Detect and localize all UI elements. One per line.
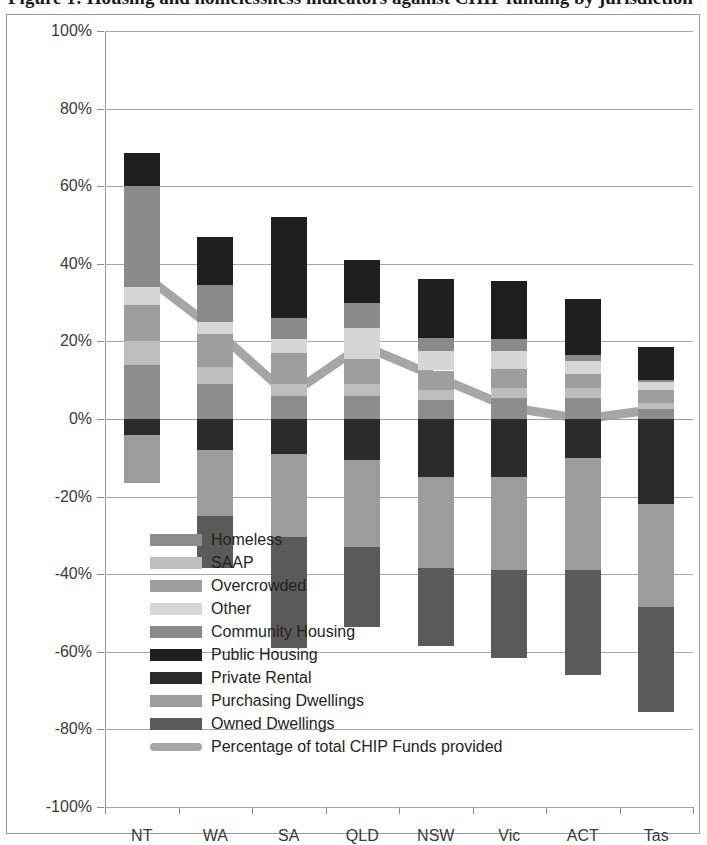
x-axis-tick xyxy=(546,807,547,814)
bar-segment xyxy=(124,186,160,287)
bar-segment xyxy=(418,390,454,400)
x-axis-tick xyxy=(179,807,180,814)
y-axis-tick xyxy=(97,31,104,32)
x-axis-tick xyxy=(620,807,621,814)
bar-segment xyxy=(197,322,233,334)
y-axis-label: -60% xyxy=(55,643,92,661)
bar-segment xyxy=(638,409,674,419)
bar-segment xyxy=(197,285,233,322)
bar-segment xyxy=(565,419,601,458)
legend-item[interactable]: Community Housing xyxy=(150,620,502,643)
bar-segment xyxy=(344,303,380,328)
bar-segment xyxy=(271,454,307,537)
x-axis-tick xyxy=(399,807,400,814)
legend-item-label: Purchasing Dwellings xyxy=(211,693,364,709)
bar-segment xyxy=(491,388,527,398)
y-axis-tick xyxy=(97,497,104,498)
bar-segment xyxy=(197,450,233,516)
legend-swatch-icon xyxy=(150,695,202,707)
y-axis-label: -100% xyxy=(46,798,92,816)
gridline xyxy=(105,186,693,187)
bar-segment xyxy=(124,365,160,419)
bar-segment xyxy=(124,435,160,484)
bar-segment xyxy=(124,341,160,364)
gridline xyxy=(105,341,693,342)
legend-swatch-icon xyxy=(150,580,202,592)
bar-segment xyxy=(638,607,674,712)
bar-segment xyxy=(197,384,233,419)
legend-swatch-icon xyxy=(150,743,202,751)
bar-segment xyxy=(271,217,307,318)
gridline xyxy=(105,264,693,265)
legend-swatch-icon xyxy=(150,672,202,684)
legend-item-label: Other xyxy=(211,601,251,617)
legend-item[interactable]: Percentage of total CHIP Funds provided xyxy=(150,735,502,758)
bar-segment xyxy=(638,403,674,409)
legend-item[interactable]: SAAP xyxy=(150,551,502,574)
bar-segment xyxy=(197,334,233,367)
y-axis-label: -40% xyxy=(55,565,92,583)
legend-item[interactable]: Purchasing Dwellings xyxy=(150,689,502,712)
page-title: Figure 1: Housing and homelessness indic… xyxy=(8,0,693,9)
bar-segment xyxy=(418,400,454,419)
bar-tas xyxy=(638,31,674,807)
bar-segment xyxy=(124,305,160,342)
y-axis-label: 20% xyxy=(60,332,92,350)
legend-item-label: Owned Dwellings xyxy=(211,716,335,732)
bar-segment xyxy=(565,374,601,388)
bar-segment xyxy=(638,347,674,380)
legend-item[interactable]: Public Housing xyxy=(150,643,502,666)
x-axis-tick xyxy=(252,807,253,814)
y-axis-label: 80% xyxy=(60,100,92,118)
bar-segment xyxy=(491,419,527,477)
y-axis-tick xyxy=(97,652,104,653)
gridline xyxy=(105,497,693,498)
bar-segment xyxy=(124,287,160,304)
chart-legend: HomelessSAAPOvercrowdedOtherCommunity Ho… xyxy=(150,528,502,758)
y-axis-tick xyxy=(97,341,104,342)
x-axis-label-qld: QLD xyxy=(346,827,379,845)
bar-segment xyxy=(491,339,527,351)
legend-item[interactable]: Other xyxy=(150,597,502,620)
bar-segment xyxy=(197,367,233,384)
bar-segment xyxy=(491,398,527,419)
legend-item[interactable]: Owned Dwellings xyxy=(150,712,502,735)
bar-segment xyxy=(271,318,307,339)
legend-item[interactable]: Overcrowded xyxy=(150,574,502,597)
y-axis-label: -20% xyxy=(55,488,92,506)
y-axis-label: 40% xyxy=(60,255,92,273)
bar-segment xyxy=(344,359,380,384)
bar-segment xyxy=(638,504,674,607)
bar-segment xyxy=(344,396,380,419)
x-axis-tick xyxy=(693,807,694,814)
bar-segment xyxy=(271,339,307,353)
bar-segment xyxy=(565,398,601,419)
legend-item-label: Community Housing xyxy=(211,624,355,640)
bar-act xyxy=(565,31,601,807)
bar-segment xyxy=(271,384,307,396)
bar-segment xyxy=(344,419,380,460)
y-axis-tick xyxy=(97,264,104,265)
legend-swatch-icon xyxy=(150,557,202,569)
bar-segment xyxy=(565,388,601,398)
legend-item-label: Percentage of total CHIP Funds provided xyxy=(211,739,502,755)
y-axis-tick xyxy=(97,186,104,187)
gridline xyxy=(105,31,693,32)
bar-segment xyxy=(418,351,454,370)
bar-segment xyxy=(565,355,601,361)
legend-swatch-icon xyxy=(150,603,202,615)
x-axis-tick xyxy=(473,807,474,814)
legend-item[interactable]: Private Rental xyxy=(150,666,502,689)
x-axis-tick xyxy=(326,807,327,814)
legend-item[interactable]: Homeless xyxy=(150,528,502,551)
bar-segment xyxy=(197,419,233,450)
bar-segment xyxy=(418,338,454,352)
bar-segment xyxy=(418,371,454,390)
bar-segment xyxy=(271,419,307,454)
y-axis-label: 0% xyxy=(69,410,92,428)
y-axis-tick xyxy=(97,729,104,730)
y-axis-tick xyxy=(97,574,104,575)
legend-item-label: Public Housing xyxy=(211,647,318,663)
bar-segment xyxy=(344,384,380,396)
